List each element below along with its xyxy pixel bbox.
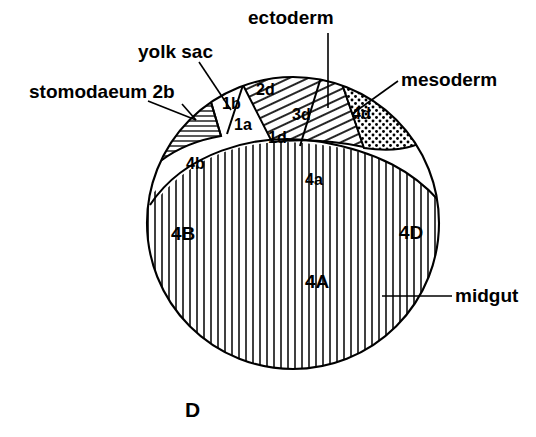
cell-label-1a: 1a	[234, 116, 252, 133]
panel-letter: D	[185, 398, 200, 421]
cell-label-1d: 1d	[268, 129, 287, 146]
cell-label-4D: 4D	[399, 222, 423, 243]
cell-label-4d: 4d	[352, 105, 371, 122]
cell-label-4A: 4A	[305, 271, 330, 292]
cell-label-4b: 4b	[186, 155, 205, 172]
callout-midgut: midgut	[455, 285, 519, 306]
midgut-vertical-hatch	[140, 140, 443, 380]
cell-label-4a: 4a	[305, 171, 323, 188]
cell-label-1b: 1b	[222, 95, 241, 112]
callout-ectoderm: ectoderm	[248, 7, 334, 28]
cell-label-3d: 3d	[292, 106, 311, 123]
callout-yolk-sac: yolk sac	[138, 41, 213, 62]
embryo-diagram: ectoderm yolk sac stomodaeum 2b mesoderm…	[0, 0, 536, 437]
callout-stomodaeum: stomodaeum 2b	[29, 81, 175, 102]
cell-label-2d: 2d	[256, 81, 275, 98]
embryo-fate-map-figure: ectoderm yolk sac stomodaeum 2b mesoderm…	[0, 0, 536, 437]
callout-mesoderm: mesoderm	[401, 69, 497, 90]
leader-stomodaeum	[148, 101, 196, 120]
cell-label-4B: 4B	[171, 223, 195, 244]
